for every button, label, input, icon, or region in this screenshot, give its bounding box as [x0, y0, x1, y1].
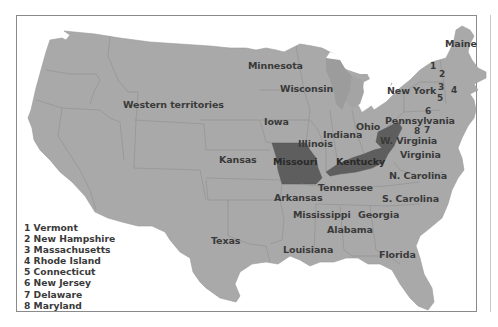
marker-5: 5 [437, 94, 443, 103]
label-missouri: Missouri [273, 157, 317, 167]
marker-3: 3 [438, 83, 444, 92]
marker-7: 7 [424, 126, 430, 135]
label-mississippi: Mississippi [293, 210, 351, 220]
legend-item: 2 New Hampshire [24, 233, 115, 244]
legend-item: 3 Massachusetts [24, 244, 115, 255]
marker-8: 8 [414, 127, 420, 136]
label-illinois: Illinois [298, 139, 333, 149]
legend-item: 1 Vermont [24, 222, 115, 233]
label-pennsylvania: Pennsylvania [385, 116, 455, 126]
label-wisconsin: Wisconsin [280, 84, 333, 94]
legend-item: 8 Maryland [24, 300, 115, 311]
label-new-york: New York [387, 86, 436, 96]
marker-6: 6 [425, 107, 431, 116]
marker-1: 1 [430, 62, 436, 71]
label-texas: Texas [211, 236, 240, 246]
marker-4: 4 [451, 86, 457, 95]
label-iowa: Iowa [264, 117, 289, 127]
label-w-virginia: W. Virginia [380, 136, 437, 146]
label-tennessee: Tennessee [318, 183, 373, 193]
label-kansas: Kansas [219, 155, 257, 165]
label-s-carolina: S. Carolina [382, 194, 439, 204]
legend-item: 7 Delaware [24, 289, 115, 300]
map-legend: 1 Vermont 2 New Hampshire 3 Massachusett… [24, 222, 115, 311]
label-florida: Florida [379, 250, 416, 260]
label-alabama: Alabama [327, 225, 373, 235]
label-kentucky: Kentucky [336, 157, 385, 167]
legend-item: 4 Rhode Island [24, 255, 115, 266]
label-georgia: Georgia [358, 210, 399, 220]
label-ohio: Ohio [356, 122, 380, 132]
label-louisiana: Louisiana [283, 245, 333, 255]
marker-2: 2 [439, 70, 445, 79]
label-minnesota: Minnesota [248, 61, 303, 71]
legend-item: 5 Connecticut [24, 266, 115, 277]
label-n-carolina: N. Carolina [389, 171, 447, 181]
label-maine: Maine [445, 39, 477, 49]
label-virginia: Virginia [400, 150, 441, 160]
label-arkansas: Arkansas [274, 193, 322, 203]
legend-item: 6 New Jersey [24, 277, 115, 288]
label-western-territories: Western territories [123, 100, 224, 110]
